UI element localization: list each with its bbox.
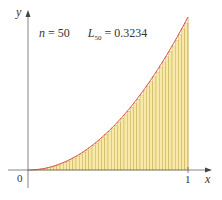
x-axis-label: x [205, 172, 210, 187]
riemann-rectangle [162, 62, 165, 170]
riemann-rectangle [92, 146, 95, 170]
riemann-rectangle [108, 132, 111, 170]
riemann-rectangle [159, 67, 162, 170]
riemann-rectangle [182, 29, 185, 170]
n-value: = 50 [48, 26, 70, 40]
riemann-rectangle [111, 129, 114, 170]
riemann-rectangle [89, 148, 92, 170]
riemann-rectangle [105, 135, 108, 170]
riemann-rectangle [172, 46, 175, 170]
riemann-rectangle [153, 77, 156, 170]
riemann-rectangle [156, 72, 159, 170]
riemann-rectangle [79, 154, 82, 170]
y-axis-arrow-icon [26, 10, 31, 17]
riemann-rectangle [70, 160, 73, 170]
riemann-rectangle [114, 125, 117, 170]
riemann-rectangle [137, 99, 140, 170]
riemann-rectangle [86, 150, 89, 170]
riemann-rectangle [150, 82, 153, 170]
riemann-rectangle [60, 164, 63, 170]
riemann-rectangle [98, 140, 101, 170]
riemann-rectangle [50, 167, 53, 170]
riemann-rectangle [102, 138, 105, 170]
riemann-rectangle [169, 52, 172, 170]
annotation: n = 50 L50 = 0.3234 [39, 26, 147, 42]
n-label: n [39, 26, 45, 40]
riemann-rectangle [127, 111, 130, 170]
L-subscript: 50 [94, 34, 101, 42]
riemann-rectangle [95, 143, 98, 170]
riemann-rectangle [140, 95, 143, 170]
x-tick-label-0: 0 [17, 172, 23, 184]
y-axis-label: y [16, 5, 21, 20]
riemann-rectangle [73, 158, 76, 170]
riemann-rectangle [66, 161, 69, 170]
riemann-rectangle [130, 107, 133, 170]
L-value: = 0.3234 [104, 26, 147, 40]
riemann-rectangle [143, 91, 146, 170]
riemann-rectangle [118, 122, 121, 170]
riemann-rectangle [185, 23, 188, 170]
riemann-rectangle [121, 119, 124, 170]
x-tick-label-1: 1 [185, 173, 191, 185]
riemann-rectangle [175, 41, 178, 170]
riemann-rectangle [166, 57, 169, 170]
riemann-rectangle [82, 152, 85, 170]
riemann-rectangle [134, 103, 137, 170]
riemann-rectangle [178, 35, 181, 170]
riemann-rectangle [57, 165, 60, 170]
riemann-rectangle [124, 115, 127, 170]
riemann-rectangle [54, 166, 57, 170]
riemann-rectangle [63, 163, 66, 170]
riemann-rectangle [146, 86, 149, 170]
riemann-rectangle [76, 156, 79, 170]
